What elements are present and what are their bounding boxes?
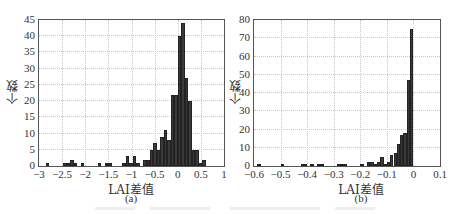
grid-line-horizontal xyxy=(39,51,224,52)
histogram-a: 051015202530354045 −3−2.5−2−1.5−1−0.500.… xyxy=(0,0,226,200)
grid-line-horizontal xyxy=(39,68,224,69)
grid-line-vertical xyxy=(307,20,308,166)
x-tick-label: −0.6 xyxy=(239,169,269,180)
histogram-bar xyxy=(310,164,313,166)
histogram-bar xyxy=(136,163,139,166)
x-tick-label: −0.4 xyxy=(292,169,322,180)
y-tick-label: 60 xyxy=(226,51,250,62)
x-tick-label: 0.1 xyxy=(425,169,452,180)
y-tick-label: 10 xyxy=(11,128,35,139)
histogram-bar xyxy=(320,164,323,166)
histogram-bar xyxy=(360,164,363,166)
y-tick-label: 50 xyxy=(226,69,250,80)
histogram-bar xyxy=(46,163,49,166)
histogram-bar xyxy=(304,164,307,166)
histogram-bar xyxy=(108,163,111,166)
y-tick-label: 30 xyxy=(226,105,250,116)
grid-line-vertical xyxy=(108,20,109,166)
histogram-bar xyxy=(98,163,101,166)
x-tick-label: −0.5 xyxy=(266,169,296,180)
y-axis-label-b: 个数 xyxy=(227,80,244,104)
y-tick-label: 80 xyxy=(226,14,250,25)
y-tick-label: 15 xyxy=(11,111,35,122)
histogram-bar xyxy=(410,29,413,166)
x-tick-label: −0.3 xyxy=(319,169,349,180)
plot-area-a xyxy=(38,19,225,167)
y-tick-label: 10 xyxy=(226,142,250,153)
x-tick-label: −0.2 xyxy=(345,169,375,180)
histogram-b: 01020304050607080 −0.6−0.5−0.4−0.3−0.2−0… xyxy=(226,0,452,200)
grid-line-horizontal xyxy=(39,35,224,36)
grid-line-vertical xyxy=(281,20,282,166)
grid-line-horizontal xyxy=(39,116,224,117)
histogram-bar xyxy=(344,164,347,166)
y-tick-label: 20 xyxy=(226,124,250,135)
y-tick-label: 70 xyxy=(226,32,250,43)
histogram-bar xyxy=(202,160,205,166)
histogram-bar xyxy=(281,164,284,166)
y-tick-label: 45 xyxy=(11,14,35,25)
grid-line-vertical xyxy=(413,20,414,166)
x-tick-label: −0.1 xyxy=(372,169,402,180)
grid-line-vertical xyxy=(387,20,388,166)
grid-line-horizontal xyxy=(39,133,224,134)
grid-line-vertical xyxy=(360,20,361,166)
y-tick-label: 35 xyxy=(11,46,35,57)
plot-area-b xyxy=(253,19,441,167)
y-tick-label: 40 xyxy=(11,30,35,41)
grid-line-horizontal xyxy=(39,100,224,101)
y-tick-label: 5 xyxy=(11,144,35,155)
grid-line-vertical xyxy=(85,20,86,166)
y-axis-label-a: 个数 xyxy=(4,80,21,104)
x-tick-label: 0 xyxy=(398,169,428,180)
histogram-bar xyxy=(74,163,77,166)
histogram-bar xyxy=(81,163,84,166)
grid-line-vertical xyxy=(132,20,133,166)
grid-line-vertical xyxy=(201,20,202,166)
grid-line-vertical xyxy=(334,20,335,166)
grid-line-vertical xyxy=(62,20,63,166)
figure-caption-faded xyxy=(0,203,452,214)
y-tick-label: 30 xyxy=(11,63,35,74)
grid-line-horizontal xyxy=(39,84,224,85)
histogram-bar xyxy=(257,164,260,166)
